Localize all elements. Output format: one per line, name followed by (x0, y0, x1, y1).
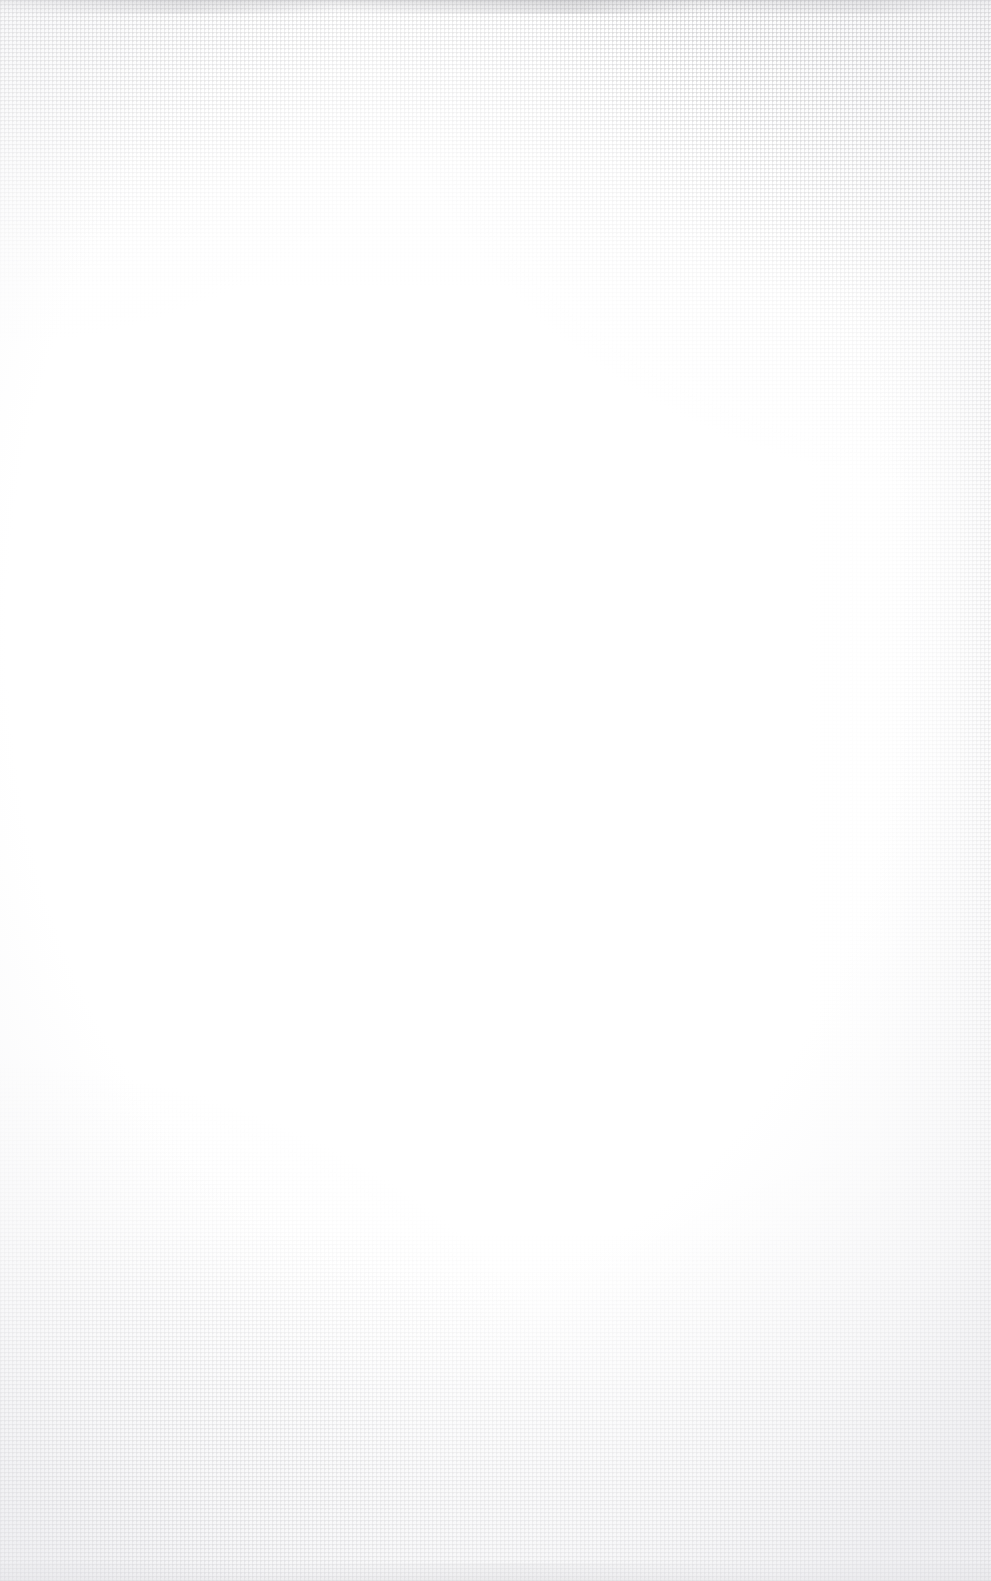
scanned-page (0, 0, 991, 1581)
page-content-area (60, 60, 931, 1521)
